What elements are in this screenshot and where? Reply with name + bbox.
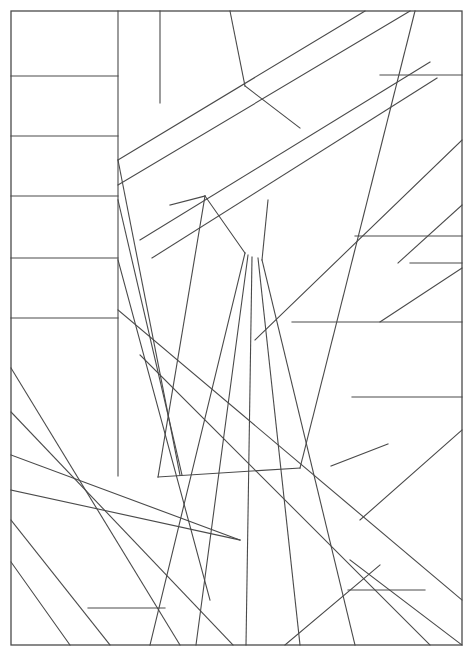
illustration-canvas (0, 0, 475, 659)
line-art-svg (0, 0, 475, 659)
outer-border-rectangle (11, 11, 462, 645)
